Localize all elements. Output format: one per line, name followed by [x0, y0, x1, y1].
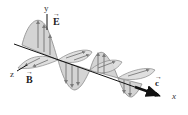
z-axis-label: z: [10, 70, 14, 79]
y-axis-label: y: [44, 4, 49, 13]
magnetic-field-label: B: [26, 75, 33, 85]
x-axis-label: x: [172, 92, 176, 101]
electric-field-label: E: [53, 17, 60, 27]
em-wave-graphic: [0, 0, 188, 115]
em-wave-diagram: y → E z → B → c x: [0, 0, 188, 115]
velocity-label: c: [155, 79, 159, 88]
velocity-arrow: [135, 87, 158, 95]
